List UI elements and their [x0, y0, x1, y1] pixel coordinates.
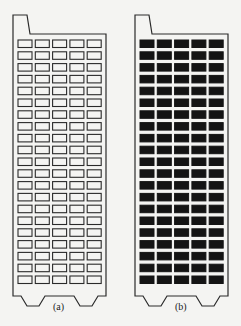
grid-cell: [209, 146, 223, 154]
grid-cell: [140, 158, 154, 166]
grid-cell: [175, 241, 189, 249]
grid-cell: [87, 276, 101, 284]
grid-cell: [87, 52, 101, 60]
grid-cell: [87, 229, 101, 237]
grid-cell: [53, 264, 67, 272]
grid-cell: [175, 99, 189, 107]
grid-cell: [175, 182, 189, 190]
grid-cell: [157, 229, 171, 237]
grid-cell: [140, 229, 154, 237]
grid-cell: [175, 40, 189, 48]
grid-cell: [87, 241, 101, 249]
grid-cell: [53, 111, 67, 119]
grid-cell: [157, 134, 171, 142]
grid-cell: [157, 182, 171, 190]
grid-cell: [87, 217, 101, 225]
grid-cell: [157, 146, 171, 154]
grid-cell: [192, 241, 206, 249]
grid-cell: [35, 52, 49, 60]
grid-cell: [157, 193, 171, 201]
grid-cell: [140, 182, 154, 190]
grid-cell: [18, 170, 32, 178]
grid-cell: [18, 146, 32, 154]
grid-cell: [18, 158, 32, 166]
grid-cell: [140, 87, 154, 95]
grid-cell: [87, 170, 101, 178]
grid-cell: [192, 87, 206, 95]
grid-cell: [140, 193, 154, 201]
grid-cell: [70, 170, 84, 178]
grid-cell: [192, 99, 206, 107]
grid-cell: [192, 111, 206, 119]
grid-cell: [70, 241, 84, 249]
grid-cell: [87, 146, 101, 154]
grid-cell: [175, 193, 189, 201]
grid-cell: [53, 40, 67, 48]
grid-cell: [192, 182, 206, 190]
grid-cell: [18, 123, 32, 131]
grid-cell: [209, 205, 223, 213]
grid-cell: [192, 252, 206, 260]
grid-cell: [192, 193, 206, 201]
grid-cell: [157, 276, 171, 284]
grid-cell: [35, 170, 49, 178]
grid-cell: [192, 170, 206, 178]
grid-cell: [192, 64, 206, 72]
grid-cell: [70, 252, 84, 260]
grid-cell: [87, 205, 101, 213]
grid-cell: [192, 134, 206, 142]
grid-cell: [140, 170, 154, 178]
grid-cell: [35, 276, 49, 284]
grid-cell: [53, 99, 67, 107]
figure-canvas: [0, 0, 241, 326]
grid-cell: [192, 264, 206, 272]
grid-cell: [35, 146, 49, 154]
grid-cell: [175, 252, 189, 260]
grid-cell: [175, 87, 189, 95]
grid-cell: [140, 146, 154, 154]
grid-cell: [53, 87, 67, 95]
grid-cell: [157, 123, 171, 131]
grid-cell: [53, 241, 67, 249]
grid-cell: [35, 205, 49, 213]
grid-cell: [53, 205, 67, 213]
grid-cell: [18, 182, 32, 190]
grid-cell: [192, 75, 206, 83]
grid-cell: [70, 205, 84, 213]
grid-cell: [157, 241, 171, 249]
grid-cell: [192, 276, 206, 284]
grid-cell: [157, 99, 171, 107]
grid-cell: [140, 264, 154, 272]
grid-cell: [18, 87, 32, 95]
grid-cell: [209, 158, 223, 166]
grid-cell: [70, 52, 84, 60]
caption-b: (b): [175, 301, 187, 312]
grid-cell: [18, 193, 32, 201]
grid-cell: [35, 193, 49, 201]
grid-cell: [209, 52, 223, 60]
grid-cell: [87, 264, 101, 272]
grid-cell: [209, 229, 223, 237]
grid-cell: [18, 276, 32, 284]
grid-cell: [175, 205, 189, 213]
grid-cell: [175, 134, 189, 142]
grid-cell: [140, 123, 154, 131]
grid-cell: [209, 182, 223, 190]
grid-cell: [70, 146, 84, 154]
grid-cell: [35, 217, 49, 225]
grid-cell: [70, 111, 84, 119]
grid-cell: [35, 182, 49, 190]
grid-cell: [53, 229, 67, 237]
grid-cell: [18, 99, 32, 107]
grid-cell: [209, 64, 223, 72]
grid-cell: [140, 217, 154, 225]
grid-cell: [192, 217, 206, 225]
grid-cell: [87, 193, 101, 201]
grid-cell: [35, 134, 49, 142]
grid-cell: [53, 146, 67, 154]
grid-cell: [157, 111, 171, 119]
grid-cell: [157, 252, 171, 260]
grid-cell: [140, 52, 154, 60]
grid-cell: [87, 182, 101, 190]
grid-cell: [35, 87, 49, 95]
